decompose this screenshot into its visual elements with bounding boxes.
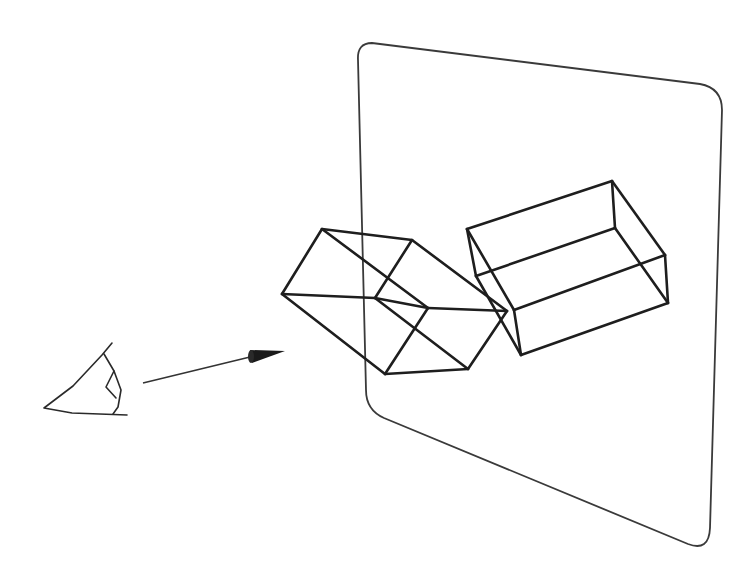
eye-iris (113, 371, 121, 414)
projection-diagram (0, 0, 743, 581)
object-box-wireframe (282, 229, 507, 374)
box-edge (467, 181, 612, 229)
arrowhead-base (248, 350, 254, 363)
box-edge (375, 240, 412, 298)
box-edge (385, 308, 428, 374)
box-edge (665, 255, 668, 303)
eye-lid (104, 354, 116, 398)
box-edge (282, 294, 375, 298)
eye-outline (44, 343, 127, 415)
box-edge (612, 181, 615, 228)
box-edge (476, 228, 615, 276)
box-edge (521, 303, 668, 355)
box-edge (615, 228, 668, 303)
box-edge (282, 229, 322, 294)
view-ray-line (143, 357, 250, 383)
eye-icon (44, 343, 127, 415)
box-edge (282, 294, 385, 374)
box-edge (385, 369, 468, 374)
box-edge (514, 255, 665, 310)
projected-box-wireframe (467, 181, 668, 355)
box-edge (612, 181, 665, 255)
view-ray-arrow (143, 350, 285, 383)
arrowhead-icon (250, 350, 285, 363)
